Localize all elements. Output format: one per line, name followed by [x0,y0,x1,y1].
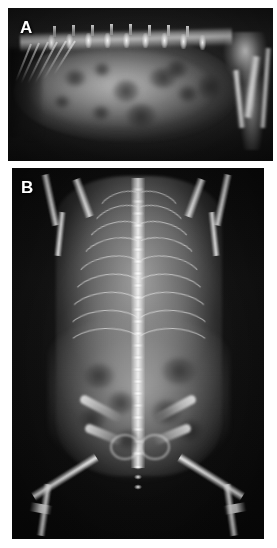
panel-b-ventrodorsal-radiograph: B [12,168,264,539]
panel-a-spinous-process [110,24,113,35]
panel-b-left-obturator-foramen [110,434,140,460]
panel-a-lateral-radiograph: A [8,8,273,161]
panel-a-spinous-process [186,26,189,37]
panel-a-spinous-process [91,25,94,36]
radiograph-figure: A [0,0,277,548]
panel-a-bowel-gas [126,104,156,128]
panel-a-spinous-process [129,24,132,35]
panel-a-bowel-gas [166,60,188,78]
panel-a-bowel-gas [113,80,139,102]
panel-a-spinous-process [72,25,75,36]
panel-b-vertebra [132,390,145,397]
panel-b-bowel-gas [162,358,196,384]
panel-b-caudal-vertebra [134,474,142,480]
panel-b-vertebra [132,378,145,385]
panel-b-label: B [21,179,33,196]
panel-b-vertebra [132,414,145,421]
panel-b-caudal-vertebra [134,484,142,490]
panel-b-bowel-gas [84,364,114,388]
panel-a-bowel-gas [178,86,198,102]
panel-a-vertebra [104,33,111,48]
panel-b-right-obturator-foramen [140,434,170,460]
panel-a-label: A [20,19,32,36]
panel-a-bowel-gas [64,70,86,86]
panel-a-spinous-process [167,25,170,36]
panel-a-bowel-gas [94,63,110,76]
panel-b-caudal-vertebra [134,464,143,470]
panel-a-spinous-process [148,25,151,36]
panel-a-vertebra [123,33,130,48]
panel-a-bowel-gas [92,106,110,120]
panel-a-spinous-process [53,26,56,37]
panel-a-vertebra [199,35,206,50]
panel-a-bowel-gas [54,96,70,108]
